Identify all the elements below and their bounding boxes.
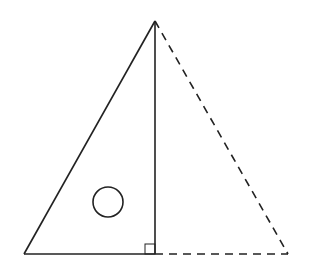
circle xyxy=(93,187,123,217)
right-angle-marker xyxy=(145,244,155,254)
dashed-lines xyxy=(155,21,288,254)
solid-lines xyxy=(24,21,155,254)
dashed-right-side-line xyxy=(155,21,288,254)
geometry-diagram xyxy=(0,0,310,272)
left-hypotenuse-line xyxy=(24,21,155,254)
